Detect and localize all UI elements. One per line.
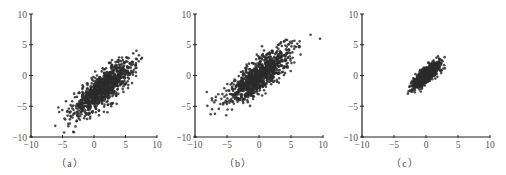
y-tick-label: 10 bbox=[182, 10, 192, 20]
x-tick-label: 10 bbox=[485, 140, 495, 150]
x-tick-label: −5 bbox=[222, 140, 232, 150]
scatter-points bbox=[54, 49, 143, 133]
caption-b: （b） bbox=[218, 155, 258, 170]
x-tick-label: 5 bbox=[456, 140, 461, 150]
caption-a: （a） bbox=[50, 155, 90, 170]
x-tick-label: −10 bbox=[188, 140, 203, 150]
figure: −10−50510−10−50510 （a） −10−50510−10−5051… bbox=[0, 0, 506, 175]
scatter-points bbox=[407, 55, 447, 95]
scatter-panel-b: −10−50510−10−50510 （b） bbox=[168, 0, 336, 175]
x-tick-label: 0 bbox=[257, 140, 262, 150]
x-tick-label: 0 bbox=[424, 140, 429, 150]
x-tick-label: −5 bbox=[389, 140, 399, 150]
x-tick-label: −10 bbox=[355, 140, 370, 150]
x-tick-label: 10 bbox=[318, 140, 328, 150]
x-tick-label: −10 bbox=[24, 140, 39, 150]
x-tick-label: 0 bbox=[92, 140, 97, 150]
x-tick-label: −5 bbox=[57, 140, 67, 150]
y-tick-label: 10 bbox=[18, 10, 28, 20]
y-tick-label: 5 bbox=[22, 40, 27, 50]
y-tick-label: −5 bbox=[348, 102, 358, 112]
scatter-points bbox=[205, 33, 321, 116]
scatter-panel-a: −10−50510−10−50510 （a） bbox=[0, 0, 168, 175]
scatter-plot-c: −10−50510−10−50510 bbox=[336, 0, 504, 150]
caption-c: （c） bbox=[385, 155, 425, 170]
y-tick-label: −5 bbox=[181, 102, 191, 112]
scatter-plot-a: −10−50510−10−50510 bbox=[0, 0, 168, 150]
y-tick-label: 10 bbox=[349, 10, 359, 20]
x-tick-label: 5 bbox=[123, 140, 128, 150]
scatter-plot-b: −10−50510−10−50510 bbox=[168, 0, 336, 150]
y-tick-label: 5 bbox=[353, 40, 358, 50]
x-tick-label: 5 bbox=[289, 140, 294, 150]
y-tick-label: 0 bbox=[22, 71, 27, 81]
x-tick-label: 10 bbox=[152, 140, 162, 150]
y-tick-label: −5 bbox=[17, 102, 27, 112]
scatter-panel-c: −10−50510−10−50510 （c） bbox=[336, 0, 504, 175]
y-tick-label: 5 bbox=[186, 40, 191, 50]
y-tick-label: 0 bbox=[186, 71, 191, 81]
y-tick-label: 0 bbox=[353, 71, 358, 81]
axes: −10−50510−10−50510 bbox=[12, 10, 162, 151]
